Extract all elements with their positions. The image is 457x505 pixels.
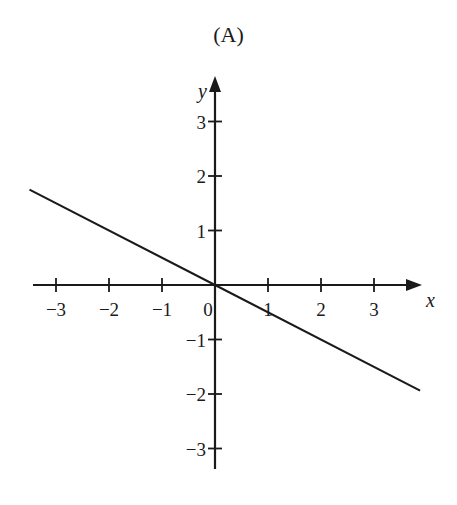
x-axis-arrow-icon [406,279,422,291]
x-axis-label: x [425,289,435,311]
data-line [30,190,421,391]
x-tick-label: 2 [316,299,326,320]
plot-area: −3−2−10123−3−2−1123xy [0,0,457,505]
y-tick-label: 3 [197,112,207,133]
y-axis-arrow-icon [209,76,221,92]
x-tick-label: 3 [369,299,379,320]
y-tick-label: −3 [186,439,206,460]
y-tick-label: 2 [197,166,207,187]
y-tick-label: −1 [186,330,206,351]
x-tick-label: −3 [46,299,66,320]
x-tick-label: −1 [152,299,172,320]
x-tick-label: −2 [99,299,119,320]
y-tick-label: 1 [197,221,207,242]
y-tick-label: −2 [186,384,206,405]
x-tick-label: 0 [203,299,213,320]
y-axis-label: y [196,80,207,103]
